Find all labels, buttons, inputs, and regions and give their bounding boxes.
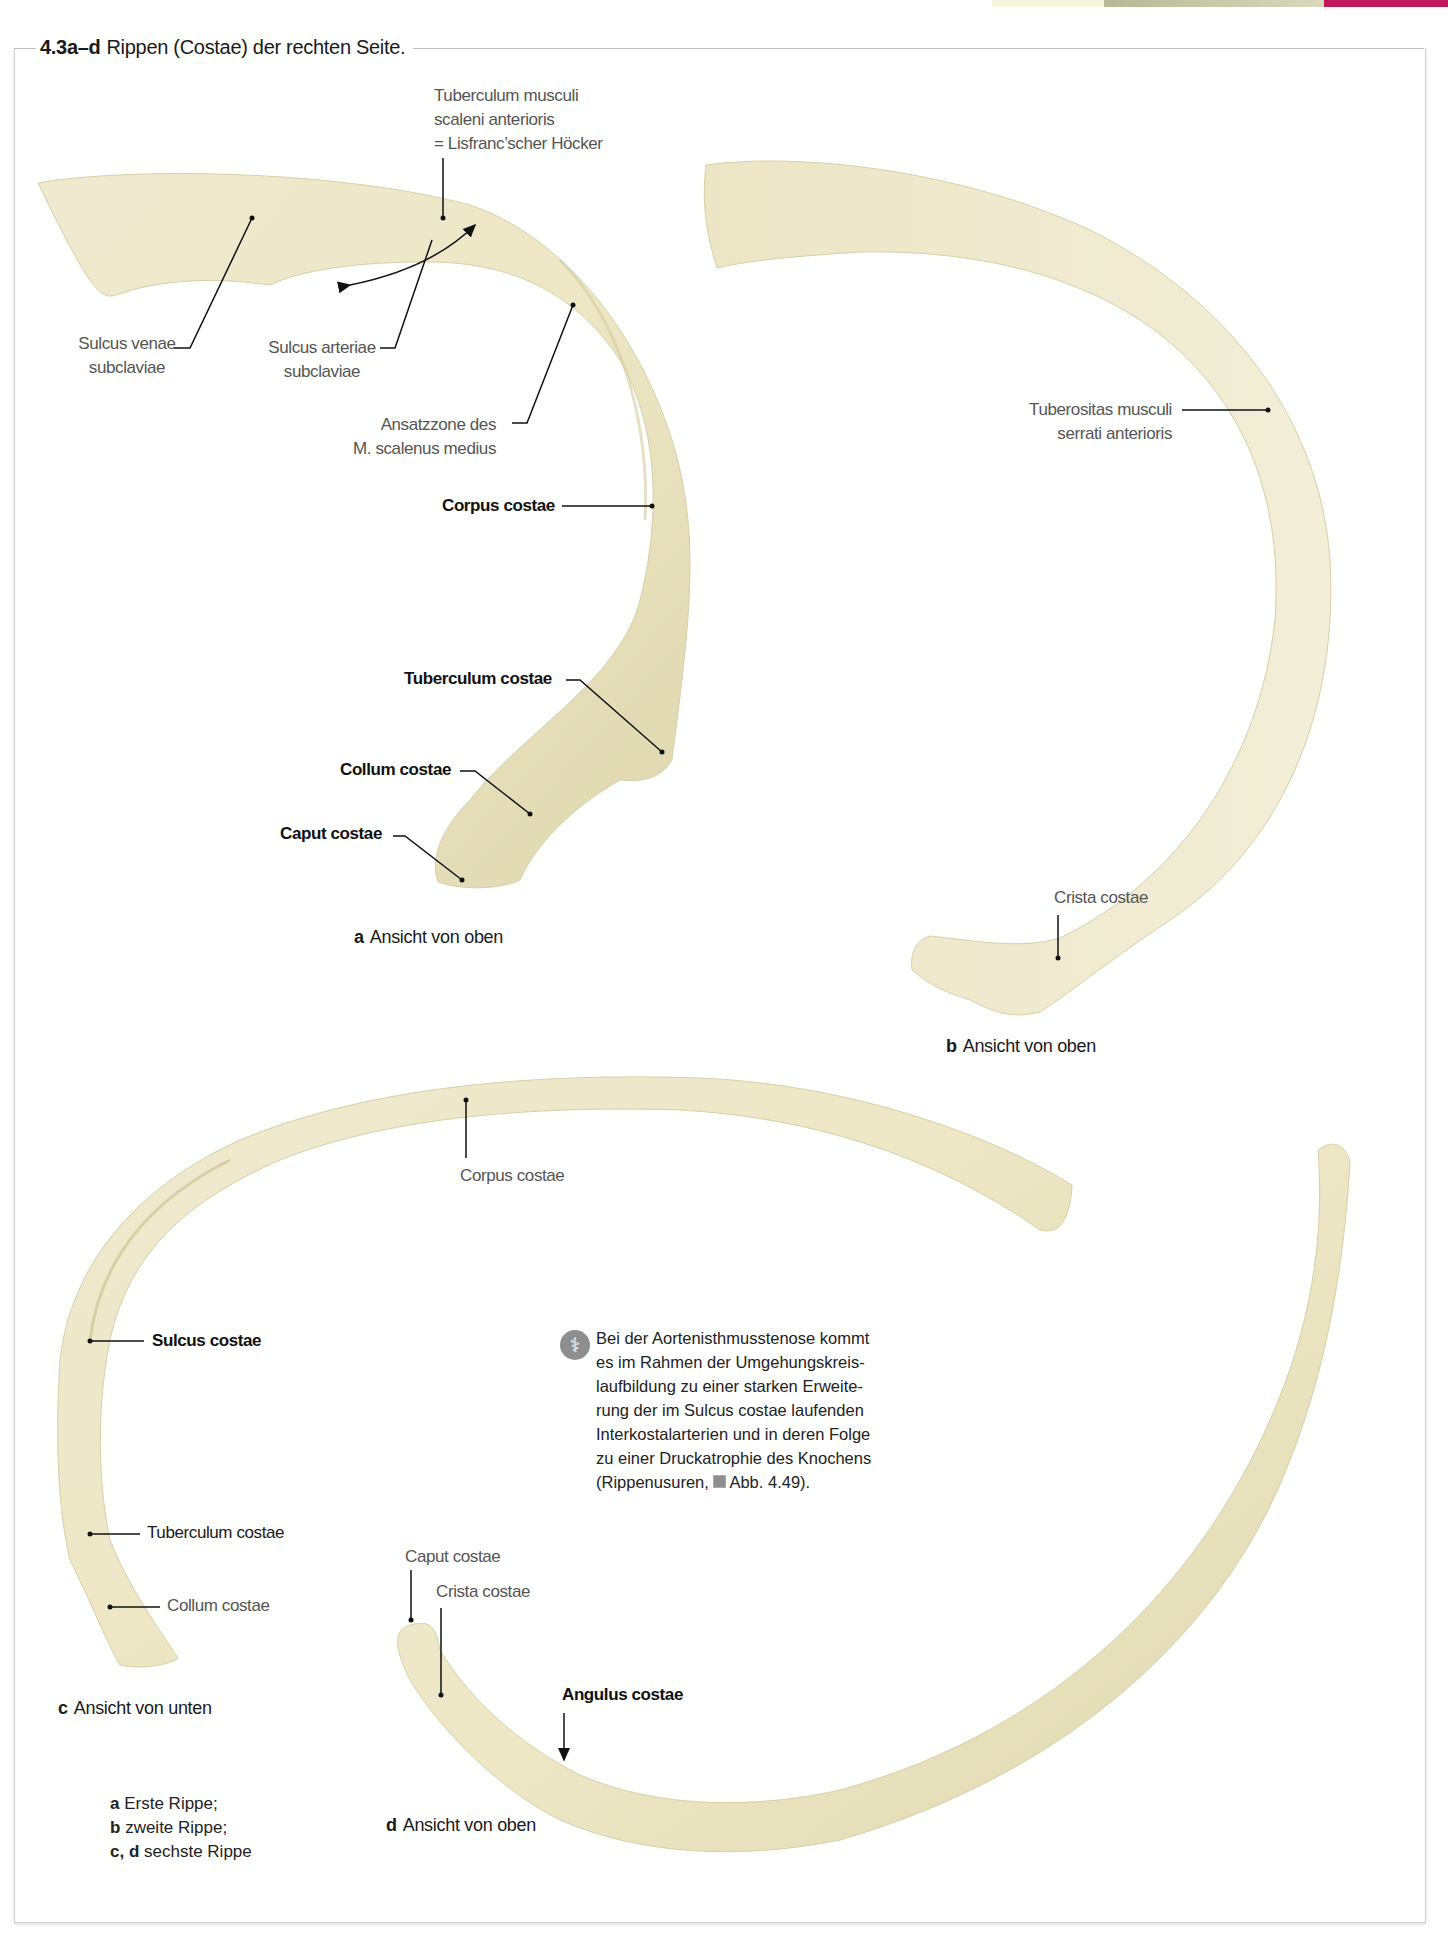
legend-text: zweite Rippe; xyxy=(125,1818,227,1837)
label-sulcus-venae-subclaviae: Sulcus venae subclaviae xyxy=(72,332,182,380)
label-line: subclaviae xyxy=(72,356,182,380)
label-angulus-costae-d: Angulus costae xyxy=(562,1683,683,1707)
caduceus-icon: ⚕ xyxy=(560,1330,590,1360)
label-line: Sulcus venae xyxy=(72,332,182,356)
caption-letter: a xyxy=(354,927,364,947)
note-prefix: (Rippenusuren, xyxy=(596,1473,709,1491)
caption-text: Ansicht von unten xyxy=(74,1698,212,1718)
caption-d: dAnsicht von oben xyxy=(386,1815,536,1836)
clinical-note: Bei der Aortenisthmusstenose kommt es im… xyxy=(596,1326,926,1494)
label-line: Ansatzzone des xyxy=(340,413,496,437)
rib-d-sixth-rib-superior-view xyxy=(398,1144,1350,1852)
caption-text: Ansicht von oben xyxy=(963,1036,1096,1056)
label-ansatzzone-scalenus-medius: Ansatzzone des M. scalenus medius xyxy=(340,413,496,461)
label-corpus-costae-c: Corpus costae xyxy=(460,1164,564,1188)
legend-text: Erste Rippe; xyxy=(124,1794,218,1813)
note-line: zu einer Druckatrophie des Knochens xyxy=(596,1446,926,1470)
label-tuberositas-serrati: Tuberositas musculi serrati anterioris xyxy=(1000,398,1172,446)
label-line: Sulcus arteriae xyxy=(262,336,382,360)
legend-item: b zweite Rippe; xyxy=(110,1816,252,1840)
figure-legend: a Erste Rippe; b zweite Rippe; c, d sech… xyxy=(110,1792,252,1864)
note-line: (Rippenusuren, Abb. 4.49). xyxy=(596,1470,926,1494)
note-line: es im Rahmen der Umgehungskreis- xyxy=(596,1350,926,1374)
label-corpus-costae-a: Corpus costae xyxy=(442,494,555,518)
label-crista-costae-b: Crista costae xyxy=(1054,886,1148,910)
rib-b-second-rib xyxy=(704,161,1331,1015)
label-sulcus-costae-c: Sulcus costae xyxy=(152,1329,261,1353)
caption-b: bAnsicht von oben xyxy=(946,1036,1096,1057)
legend-key: b xyxy=(110,1818,120,1837)
label-sulcus-arteriae-subclaviae: Sulcus arteriae subclaviae xyxy=(262,336,382,384)
legend-item: a Erste Rippe; xyxy=(110,1792,252,1816)
label-caput-costae-d: Caput costae xyxy=(405,1545,500,1569)
note-line: rung der im Sulcus costae laufenden xyxy=(596,1398,926,1422)
label-collum-costae-a: Collum costae xyxy=(340,758,451,782)
label-caput-costae-a: Caput costae xyxy=(280,822,382,846)
figure-reference-icon xyxy=(713,1475,726,1488)
label-line: = Lisfranc’scher Höcker xyxy=(434,132,603,156)
note-line: laufbildung zu einer starken Erweite- xyxy=(596,1374,926,1398)
legend-text: sechste Rippe xyxy=(144,1842,252,1861)
figure-reference-link[interactable]: Abb. 4.49 xyxy=(729,1473,800,1491)
legend-key: c, d xyxy=(110,1842,139,1861)
label-line: subclaviae xyxy=(262,360,382,384)
caption-letter: d xyxy=(386,1815,397,1835)
label-tuberculum-costae-a: Tuberculum costae xyxy=(404,667,552,691)
label-crista-costae-d: Crista costae xyxy=(436,1580,530,1604)
note-suffix: ). xyxy=(800,1473,810,1491)
note-line: Interkostalarterien und in deren Folge xyxy=(596,1422,926,1446)
label-tuberculum-costae-c: Tuberculum costae xyxy=(147,1521,284,1545)
rib-illustrations xyxy=(0,0,1448,1937)
caption-letter: c xyxy=(58,1698,68,1718)
label-line: M. scalenus medius xyxy=(340,437,496,461)
label-line: Tuberculum musculi xyxy=(434,84,603,108)
caption-a: aAnsicht von oben xyxy=(354,927,503,948)
legend-key: a xyxy=(110,1794,119,1813)
caption-c: cAnsicht von unten xyxy=(58,1698,212,1719)
note-line: Bei der Aortenisthmusstenose kommt xyxy=(596,1326,926,1350)
legend-item: c, d sechste Rippe xyxy=(110,1840,252,1864)
caption-text: Ansicht von oben xyxy=(370,927,503,947)
caption-text: Ansicht von oben xyxy=(403,1815,536,1835)
caption-letter: b xyxy=(946,1036,957,1056)
label-line: serrati anterioris xyxy=(1000,422,1172,446)
label-line: Tuberositas musculi xyxy=(1000,398,1172,422)
label-tuberculum-scaleni: Tuberculum musculi scaleni anterioris = … xyxy=(434,84,603,156)
label-collum-costae-c: Collum costae xyxy=(167,1594,270,1618)
label-line: scaleni anterioris xyxy=(434,108,603,132)
